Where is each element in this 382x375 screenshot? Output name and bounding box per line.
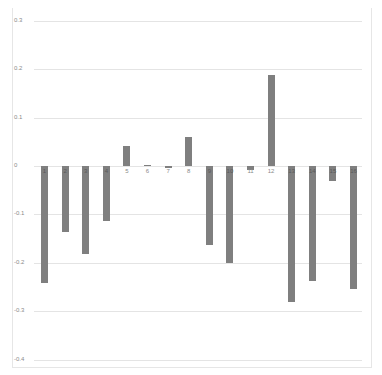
bar-13 xyxy=(288,166,295,302)
gridline xyxy=(34,360,362,361)
x-tick-label: 2 xyxy=(58,168,72,174)
x-tick-label: 7 xyxy=(161,168,175,174)
y-tick-label: -0.3 xyxy=(14,307,32,313)
x-tick-label: 4 xyxy=(99,168,113,174)
bar-14 xyxy=(309,166,316,281)
y-tick-label: 0.3 xyxy=(14,17,32,23)
x-tick-label: 14 xyxy=(305,168,319,174)
bar-2 xyxy=(62,166,69,232)
x-tick-label: 6 xyxy=(141,168,155,174)
bar-6 xyxy=(144,165,151,166)
y-tick-label: -0.2 xyxy=(14,259,32,265)
bar-16 xyxy=(350,166,357,289)
bar-8 xyxy=(185,137,192,166)
x-tick-label: 12 xyxy=(264,168,278,174)
bar-10 xyxy=(226,166,233,263)
gridline xyxy=(34,21,362,22)
bar-12 xyxy=(268,75,275,166)
bar-1 xyxy=(41,166,48,283)
x-tick-label: 15 xyxy=(326,168,340,174)
gridline xyxy=(34,118,362,119)
y-tick-label: 0 xyxy=(14,162,32,168)
x-tick-label: 1 xyxy=(38,168,52,174)
gridline xyxy=(34,69,362,70)
x-tick-label: 11 xyxy=(244,168,258,174)
gridline xyxy=(34,311,362,312)
x-tick-label: 13 xyxy=(285,168,299,174)
bar-5 xyxy=(123,146,130,166)
x-tick-label: 8 xyxy=(182,168,196,174)
x-tick-label: 5 xyxy=(120,168,134,174)
y-tick-label: -0.1 xyxy=(14,210,32,216)
x-tick-label: 16 xyxy=(347,168,361,174)
bar-9 xyxy=(206,166,213,245)
x-tick-label: 10 xyxy=(223,168,237,174)
x-tick-label: 9 xyxy=(202,168,216,174)
x-tick-label: 3 xyxy=(79,168,93,174)
bar-3 xyxy=(82,166,89,254)
bar-4 xyxy=(103,166,110,221)
y-tick-label: -0.4 xyxy=(14,356,32,362)
y-tick-label: 0.1 xyxy=(14,114,32,120)
y-tick-label: 0.2 xyxy=(14,65,32,71)
